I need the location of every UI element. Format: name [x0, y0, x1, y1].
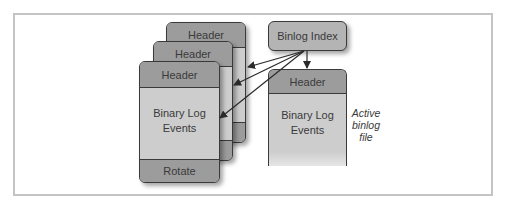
arrow-to-front-file [220, 51, 304, 118]
index-arrows [0, 0, 506, 208]
arrow-to-middle-file [234, 51, 304, 85]
